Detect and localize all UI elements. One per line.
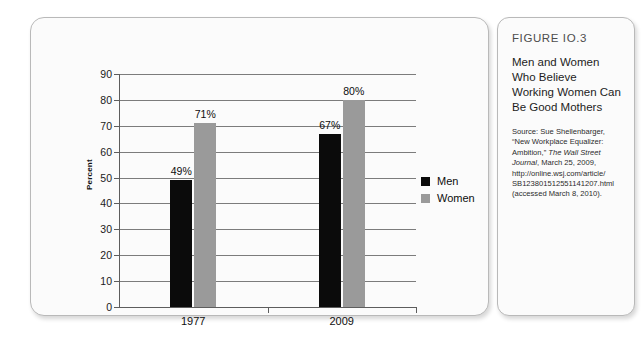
x-tick-label-2009: 2009 [302,315,382,327]
figure-source: Source: Sue Shellenbarger,“New Workplace… [512,127,621,200]
source-text: (accessed March 8, 2010). [512,189,602,198]
legend-label-men: Men [437,175,458,187]
y-tick-mark [114,203,119,204]
source-text: Ambition,” [512,148,548,157]
y-tick-label: 30 [82,223,112,235]
gridline [119,178,416,179]
chart-legend: MenWomen [421,175,475,209]
gridline [119,203,416,204]
gridline [119,126,416,127]
source-text: The Wall Street [548,148,600,157]
bar-label-men-2009: 67% [307,119,353,131]
bar-men-1977 [170,180,192,307]
bar-men-2009 [319,134,341,307]
y-axis-labels: 0102030405060708090 [79,74,112,307]
bar-label-women-1977: 71% [182,108,228,120]
y-tick-label: 90 [82,68,112,80]
bar-women-2009 [343,100,365,307]
x-tick-mark [416,307,417,313]
legend-swatch-men-icon [421,177,430,186]
plot-area [119,74,416,307]
y-tick-label: 60 [82,146,112,158]
legend-swatch-women-icon [421,194,430,203]
source-text: Source: Sue Shellenbarger, [512,127,605,136]
y-tick-label: 10 [82,275,112,287]
y-tick-mark [114,152,119,153]
source-text: http://online.wsj.com/article/ [512,169,605,178]
y-tick-label: 40 [82,197,112,209]
y-tick-label: 80 [82,94,112,106]
gridline [119,229,416,230]
y-tick-label: 0 [82,301,112,313]
y-tick-label: 20 [82,249,112,261]
y-tick-mark [114,74,119,75]
bar-label-men-1977: 49% [158,165,204,177]
x-tick-mark [268,307,269,313]
chart-panel: 0102030405060708090 Percent 19772009 49%… [30,17,489,316]
gridline [119,255,416,256]
legend-item-women: Women [421,192,475,204]
y-tick-mark [114,229,119,230]
gridline [119,100,416,101]
y-axis-title: Percent [85,159,94,190]
y-tick-mark [114,126,119,127]
source-text: “New Workplace Equalizer: [512,137,603,146]
source-text: , March 25, 2009, [537,158,596,167]
y-tick-label: 70 [82,120,112,132]
y-tick-mark [114,100,119,101]
figure-number: FIGURE IO.3 [512,32,621,44]
x-tick-label-1977: 1977 [153,315,233,327]
figure-container: 0102030405060708090 Percent 19772009 49%… [0,0,644,337]
gridline [119,74,416,75]
gridline [119,281,416,282]
y-tick-mark [114,178,119,179]
gridline [119,152,416,153]
y-tick-mark [114,281,119,282]
legend-item-men: Men [421,175,475,187]
caption-panel: FIGURE IO.3 Men and Women Who Believe Wo… [497,17,635,316]
legend-label-women: Women [437,192,475,204]
y-tick-mark [114,255,119,256]
source-text: SB123801512551141207.html [512,179,614,188]
bar-label-women-2009: 80% [331,85,377,97]
bar-women-1977 [194,123,216,307]
source-text: Journal [512,158,537,167]
figure-title: Men and Women Who Believe Working Women … [512,55,621,115]
y-axis-ticks [119,74,120,307]
